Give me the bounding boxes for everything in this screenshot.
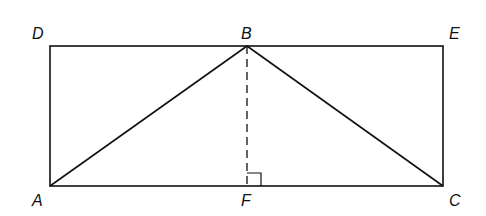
label-D: D bbox=[32, 26, 44, 42]
segment-AB bbox=[50, 46, 247, 186]
geometry-diagram: D B E A F C bbox=[0, 0, 486, 216]
label-E: E bbox=[449, 26, 460, 42]
right-angle-marker bbox=[247, 173, 261, 186]
segment-BC bbox=[247, 46, 443, 186]
label-C: C bbox=[449, 193, 461, 209]
label-A: A bbox=[32, 193, 43, 209]
label-F: F bbox=[241, 193, 251, 209]
label-B: B bbox=[241, 26, 252, 42]
